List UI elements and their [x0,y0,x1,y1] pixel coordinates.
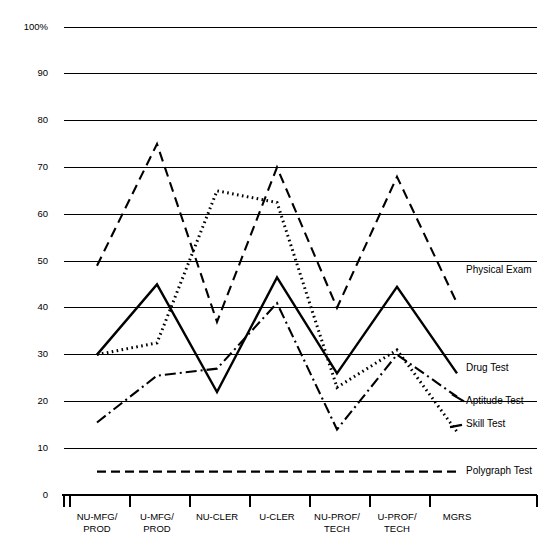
series-label-leader [450,425,462,427]
x-axis-category-label: U-MFG/PROD [140,511,174,534]
series-label-skill-test: Skill Test [466,418,505,429]
y-axis-tick-label: 70 [37,161,48,172]
y-axis-tick-label: 30 [37,348,48,359]
series-label-polygraph-test: Polygraph Test [466,465,532,476]
y-axis-tick-label: 90 [37,67,48,78]
y-axis-tick-label: 50 [37,255,48,266]
y-axis-tick-label: 60 [37,208,48,219]
y-axis-tick-label: 10 [37,442,48,453]
series-label-leader [452,394,464,401]
x-axis-tick-marks [64,495,537,507]
x-axis-category-label: NU-MFG/PROD [77,511,118,534]
y-axis-tick-label: 0 [43,489,48,500]
y-axis-tick-labels: 0102030405060708090100% [24,21,49,500]
x-axis-category-label: U-CLER [259,511,295,522]
chart-container: 0102030405060708090100% NU-MFG/PRODU-MFG… [0,0,546,549]
series-label-physical-exam: Physical Exam [466,264,532,275]
y-axis-tick-label: 100% [24,21,49,32]
series-inline-labels: Physical ExamDrug TestAptitude TestSkill… [450,264,532,476]
y-axis-tick-label: 80 [37,114,48,125]
x-axis-category-labels: NU-MFG/PRODU-MFG/PRODNU-CLERU-CLERNU-PRO… [77,511,472,534]
x-axis-category-label: U-PROF/TECH [377,511,416,534]
series-line-skill-test [97,191,457,432]
x-axis-category-label: NU-CLER [196,511,238,522]
gridlines [64,27,537,448]
y-axis-tick-label: 20 [37,395,48,406]
series-label-aptitude-test: Aptitude Test [466,395,524,406]
series-label-drug-test: Drug Test [466,362,509,373]
x-axis-category-label: NU-PROF/TECH [314,511,360,534]
series-line-aptitude-test [97,303,457,429]
series-line-drug-test [97,277,457,392]
line-chart: 0102030405060708090100% NU-MFG/PRODU-MFG… [0,0,546,549]
y-axis-tick-label: 40 [37,301,48,312]
x-axis-category-label: MGRS [443,511,472,522]
